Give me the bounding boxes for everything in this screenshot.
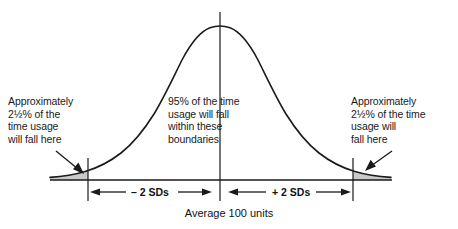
normal-distribution-figure: Approximately 2½% of the time usage will…	[0, 0, 458, 229]
right-tail-pointer-arrow	[365, 151, 392, 171]
plus-2sd-label: + 2 SDs	[272, 186, 310, 198]
minus-2sd-label: – 2 SDs	[131, 186, 169, 198]
left-tail-annotation: Approximately 2½% of the time usage will…	[8, 95, 103, 145]
left-tail-pointer-arrow	[56, 151, 84, 174]
center-annotation: 95% of the time usage will fall within t…	[168, 95, 278, 145]
right-tail-annotation: Approximately 2½% of the time usage will…	[351, 95, 456, 145]
average-axis-label: Average 100 units	[0, 207, 458, 219]
